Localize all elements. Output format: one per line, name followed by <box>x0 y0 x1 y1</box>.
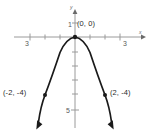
x-tick-label-3: 3 <box>123 40 127 47</box>
parabola-figure: y x 1 5 3 3 (0, 0) (-2, -4) (2, -4) <box>0 0 148 135</box>
point-right <box>103 93 107 97</box>
x-tick-label-minus-3: 3 <box>25 40 29 47</box>
right-point-label: (2, -4) <box>110 89 131 97</box>
graph-canvas <box>0 0 148 135</box>
y-axis-label: y <box>70 5 73 10</box>
x-axis-label: x <box>139 30 142 35</box>
y-tick-label-minus-5: 5 <box>66 107 70 114</box>
vertex-point-label: (0, 0) <box>77 20 95 28</box>
y-axis-arrow <box>73 9 78 14</box>
left-point-label: (-2, -4) <box>3 89 26 97</box>
point-left <box>43 93 47 97</box>
x-axis-arrow <box>141 35 146 40</box>
y-tick-label-1: 1 <box>68 21 72 28</box>
point-vertex <box>73 35 77 39</box>
